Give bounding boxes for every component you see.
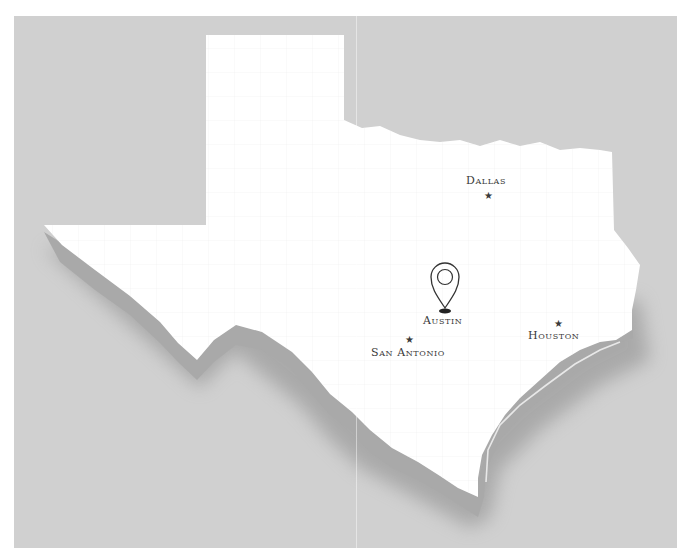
city-label-houston: Houston bbox=[528, 329, 579, 342]
star-icon: ★ bbox=[484, 191, 493, 201]
image-seam bbox=[356, 16, 357, 548]
texas-map bbox=[0, 0, 691, 555]
city-label-san-antonio: San Antonio bbox=[371, 346, 445, 359]
star-icon: ★ bbox=[554, 319, 563, 329]
city-label-dallas: Dallas bbox=[466, 174, 506, 187]
city-label-austin: Austin bbox=[423, 314, 462, 327]
star-icon: ★ bbox=[405, 335, 414, 345]
